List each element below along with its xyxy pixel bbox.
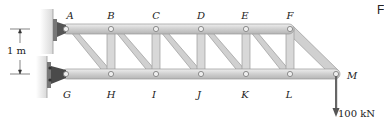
label-C: C [152,10,160,21]
label-G: G [63,89,71,100]
pin-support-G [47,62,66,88]
label-E: E [241,10,248,21]
dimension-label: 1 m [7,45,26,56]
wall-bottom [36,56,47,98]
wall-top [40,9,53,54]
label-F: F [287,10,294,21]
label-K: K [241,89,248,100]
label-A: A [66,10,73,21]
corner-fragment: F [377,3,384,17]
label-M: M [347,70,357,81]
load-label: 100 kN [338,108,375,119]
top-chord [62,24,294,34]
label-D: D [197,10,205,21]
label-J: J [197,89,201,100]
label-H: H [107,89,116,100]
label-I: I [152,89,156,100]
label-B: B [107,10,114,21]
label-L: L [286,89,293,100]
